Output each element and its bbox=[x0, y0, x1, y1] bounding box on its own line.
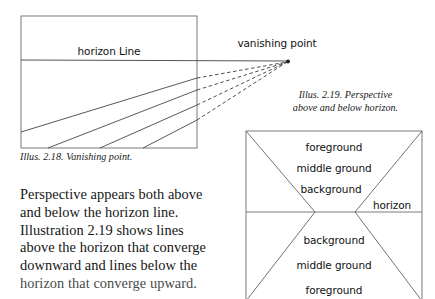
perspective-frame-219 bbox=[246, 131, 422, 299]
body-text-block: Perspective appears both above and below… bbox=[20, 186, 235, 293]
vanishing-point-label: vanishing point bbox=[237, 37, 316, 49]
perspective-frame-218 bbox=[21, 16, 197, 148]
illustration-2-19-svg: foreground middle ground background hori… bbox=[240, 125, 435, 299]
label-below-foreground: foreground bbox=[306, 284, 363, 296]
horizon-label-219: horizon bbox=[373, 199, 411, 211]
label-above-foreground: foreground bbox=[306, 141, 363, 153]
body-line-5: downward and lines below the bbox=[20, 257, 235, 275]
illustration-2-19: foreground middle ground background hori… bbox=[240, 125, 435, 299]
body-line-4: above the horizon that converge bbox=[20, 239, 235, 257]
body-line-6-clipped: horizon that converge upward. bbox=[20, 275, 235, 293]
caption-illus-2-18: Illus. 2.18. Vanishing point. bbox=[20, 150, 220, 163]
label-below-middle-ground: middle ground bbox=[296, 259, 371, 271]
body-line-2: and below the horizon line. bbox=[20, 204, 235, 222]
vanishing-point-marker bbox=[286, 60, 290, 64]
body-line-3: Illustration 2.19 shows lines bbox=[20, 222, 235, 240]
caption-illus-2-19: Illus. 2.19. Perspective above and below… bbox=[258, 88, 433, 114]
label-above-background: background bbox=[300, 183, 361, 195]
label-above-middle-ground: middle ground bbox=[296, 162, 371, 174]
horizon-line-label-218: horizon Line bbox=[78, 45, 141, 57]
label-below-background: background bbox=[303, 234, 364, 246]
page-canvas: horizon Line vanishing point Illus. 2.18… bbox=[0, 0, 435, 299]
body-line-1: Perspective appears both above bbox=[20, 186, 235, 204]
